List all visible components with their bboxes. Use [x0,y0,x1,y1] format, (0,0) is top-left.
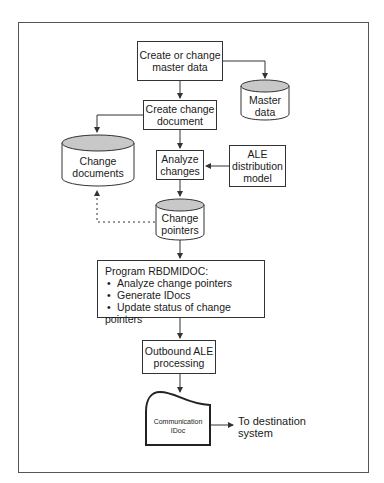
change-pointers-label: Change pointers [156,213,204,236]
destination-system-label: To destination system [238,415,306,439]
change-documents-label: Change documents [62,156,134,179]
program-step: Generate IDocs [105,289,264,301]
create-change-document-box: Create change document [143,100,217,130]
master-data-label: Master data [241,95,289,118]
create-or-change-master-data-box: Create or change master data [137,41,223,81]
outbound-ale-processing-box: Outbound ALE processing [142,340,216,374]
program-title: Program RBDMIDOC: [105,265,264,277]
communication-idoc-label: Communication IDoc [146,417,210,435]
program-step: Update status of change pointers [105,301,264,325]
arrow-to-change-documents [97,115,143,132]
ale-distribution-model-box: ALE distribution model [229,145,286,187]
program-steps-list: Analyze change pointers Generate IDocs U… [105,277,264,325]
program-step: Analyze change pointers [105,277,264,289]
arrow-to-master-data [223,61,265,78]
dashed-arrow-pointers-to-documents [97,191,155,222]
analyze-changes-box: Analyze changes [156,150,204,180]
program-rbdmidoc-box: Program RBDMIDOC: Analyze change pointer… [97,260,265,318]
